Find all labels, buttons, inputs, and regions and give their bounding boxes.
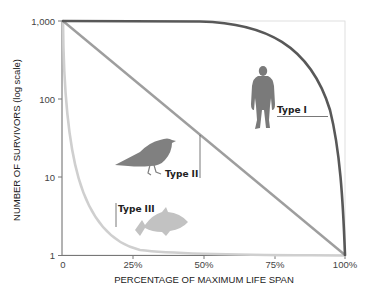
x-tick-0: 0 [60,259,65,270]
x-axis-title: PERCENTAGE OF MAXIMUM LIFE SPAN [114,274,294,285]
type-ii-label: Type II [165,169,198,179]
y-tick-1: 1 [50,250,55,261]
y-tick-1000: 1,000 [31,16,55,27]
x-axis-ticks: 0 25% 50% 75% 100% [60,256,357,271]
x-tick-75: 75% [265,259,285,270]
y-axis-title: NUMBER OF SURVIVORS (log scale) [11,59,22,221]
type-iii-label: Type III [118,204,155,214]
type-ii-curve [63,21,345,255]
x-tick-50: 50% [194,259,214,270]
y-axis-ticks: 1,000 100 10 1 [31,16,62,261]
type-i-label: Type I [277,105,307,115]
type-ii-annotation: Type II [115,135,200,179]
y-tick-10: 10 [44,172,55,183]
survivorship-chart: 1,000 100 10 1 0 25% 50% 75% 100% PERCEN… [0,0,366,303]
human-silhouette-icon [251,66,275,129]
type-i-annotation: Type I [251,66,328,129]
x-tick-100: 100% [333,259,358,270]
type-iii-annotation: Type III [116,203,188,236]
y-tick-100: 100 [39,94,55,105]
x-tick-25: 25% [123,259,143,270]
